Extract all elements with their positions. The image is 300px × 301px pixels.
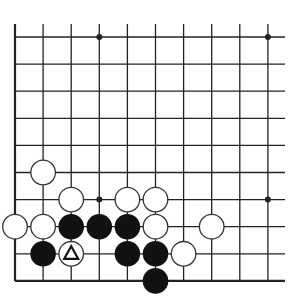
white-stone bbox=[199, 214, 224, 239]
black-stone bbox=[30, 241, 56, 267]
black-stone bbox=[58, 214, 84, 240]
white-stone bbox=[171, 242, 196, 267]
go-board bbox=[0, 0, 300, 301]
white-stone bbox=[115, 187, 140, 212]
black-stone bbox=[143, 268, 169, 294]
star-point bbox=[96, 197, 102, 203]
white-stone bbox=[31, 160, 56, 185]
black-stone bbox=[115, 241, 141, 267]
star-point bbox=[96, 34, 102, 40]
white-stone bbox=[31, 214, 56, 239]
star-point bbox=[265, 34, 271, 40]
black-stone bbox=[115, 214, 141, 240]
black-stone bbox=[143, 241, 169, 267]
black-stone bbox=[87, 214, 113, 240]
white-stone bbox=[3, 214, 28, 239]
white-stone bbox=[59, 187, 84, 212]
white-stone bbox=[143, 214, 168, 239]
star-point bbox=[265, 197, 271, 203]
white-stone bbox=[143, 187, 168, 212]
